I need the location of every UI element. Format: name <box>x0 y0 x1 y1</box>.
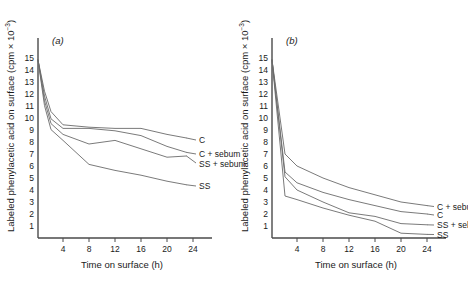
panel-a: Labeled phenylacetic acid on surface (cp… <box>0 0 234 287</box>
panel-b-label-ss: SS <box>437 230 449 240</box>
panel-a-ytick-8: 8 <box>29 137 34 147</box>
panel-a-ytick-5: 5 <box>29 173 34 183</box>
panel-b-ylabel-close: ) <box>239 20 250 23</box>
panel-b-ytick-labels: 1 2 3 4 5 6 7 8 9 10 11 12 13 14 15 <box>259 53 269 231</box>
panel-b-ytick-8: 8 <box>263 137 268 147</box>
panel-a-xtick-20: 20 <box>162 244 172 254</box>
panel-a-curves <box>38 60 187 185</box>
panel-b-xtick-labels: 4 8 12 16 20 24 <box>295 244 432 254</box>
svg-text:Labeled phenylacetic acid on s: Labeled phenylacetic acid on surface (cp… <box>4 20 16 232</box>
panel-a-ylabel-close: ) <box>5 20 16 23</box>
svg-text:Labeled phenylacetic acid on s: Labeled phenylacetic acid on surface (cp… <box>238 20 250 232</box>
panel-b-ytick-13: 13 <box>259 77 269 87</box>
panel-a-ytick-9: 9 <box>29 125 34 135</box>
panel-b-ytick-7: 7 <box>263 149 268 159</box>
panel-b-curve-ss <box>272 60 427 234</box>
panel-b-ytick-11: 11 <box>259 101 268 111</box>
panel-b-ytick-12: 12 <box>259 89 269 99</box>
panel-a-ytick-12: 12 <box>25 89 35 99</box>
panel-b-xtick-24: 24 <box>422 244 432 254</box>
panel-b-series-labels: C + sebum C SS + sebum SS <box>437 202 468 240</box>
panel-b-curve-c-sebum <box>272 60 427 206</box>
panel-b-curve-c <box>272 60 427 214</box>
panel-a-label-ss: SS <box>199 181 211 191</box>
panel-a-xtick-4: 4 <box>61 244 66 254</box>
panel-b-xtick-4: 4 <box>295 244 300 254</box>
panel-a-ytick-14: 14 <box>25 65 35 75</box>
panel-a-ytick-11: 11 <box>25 101 34 111</box>
panel-a-xaxis-title: Time on surface (h) <box>81 259 163 270</box>
panel-b-label-c: C <box>437 210 443 220</box>
panel-a-ytick-4: 4 <box>29 185 34 195</box>
panel-b-label: (b) <box>286 35 298 46</box>
panel-a-ytick-labels: 1 2 3 4 5 6 7 8 9 10 11 12 13 14 15 <box>25 53 35 231</box>
panel-b-ytick-15: 15 <box>259 53 269 63</box>
panel-a-curve-ss-sebum <box>38 60 187 157</box>
panel-a-ytick-7: 7 <box>29 149 34 159</box>
panel-b: Labeled phenylacetic acid on surface (cp… <box>234 0 468 287</box>
panel-a-xtick-labels: 4 8 12 16 20 24 <box>61 244 198 254</box>
panel-b-ytick-6: 6 <box>263 161 268 171</box>
panel-b-xtick-16: 16 <box>370 244 380 254</box>
panel-b-ylabel-main: Labeled phenylacetic acid on surface (cp… <box>239 31 250 232</box>
panel-b-ytick-5: 5 <box>263 173 268 183</box>
panel-a-ytick-6: 6 <box>29 161 34 171</box>
panel-a-label: (a) <box>52 35 64 46</box>
panel-b-ytick-10: 10 <box>259 113 269 123</box>
panel-b-plot: Labeled phenylacetic acid on surface (cp… <box>234 0 468 287</box>
panel-b-xaxis-title: Time on surface (h) <box>315 259 397 270</box>
panel-a-xtick-8: 8 <box>87 244 92 254</box>
panel-a-ylabel-main: Labeled phenylacetic acid on surface (cp… <box>5 31 16 232</box>
panel-b-ytick-2: 2 <box>263 209 268 219</box>
panel-b-ytick-1: 1 <box>263 221 268 231</box>
figure-container: Labeled phenylacetic acid on surface (cp… <box>0 0 468 287</box>
panel-a-ytick-2: 2 <box>29 209 34 219</box>
panel-b-ytick-14: 14 <box>259 65 269 75</box>
panel-b-ytick-3: 3 <box>263 197 268 207</box>
panel-a-xtick-24: 24 <box>188 244 198 254</box>
panel-a-ytick-3: 3 <box>29 197 34 207</box>
panel-b-yaxis-title: Labeled phenylacetic acid on surface (cp… <box>238 20 250 232</box>
panel-a-label-c: C <box>199 135 205 145</box>
panel-a-xtick-16: 16 <box>136 244 146 254</box>
panel-a-plot: Labeled phenylacetic acid on surface (cp… <box>0 0 234 287</box>
panel-b-label-ss-sebum: SS + sebum <box>437 220 468 230</box>
panel-a-series-leaders <box>187 138 197 186</box>
panel-b-curves <box>272 60 427 234</box>
panel-a-ytick-10: 10 <box>25 113 35 123</box>
panel-b-ytick-4: 4 <box>263 185 268 195</box>
panel-a-ytick-1: 1 <box>29 221 34 231</box>
panel-b-series-leaders <box>427 206 434 235</box>
panel-a-yaxis-title: Labeled phenylacetic acid on surface (cp… <box>4 20 16 232</box>
panel-b-xtick-8: 8 <box>321 244 326 254</box>
panel-b-xtick-12: 12 <box>344 244 354 254</box>
panel-a-ytick-15: 15 <box>25 53 35 63</box>
panel-b-ytick-9: 9 <box>263 125 268 135</box>
panel-a-xtick-12: 12 <box>110 244 120 254</box>
panel-b-xtick-20: 20 <box>396 244 406 254</box>
panel-a-ytick-13: 13 <box>25 77 35 87</box>
